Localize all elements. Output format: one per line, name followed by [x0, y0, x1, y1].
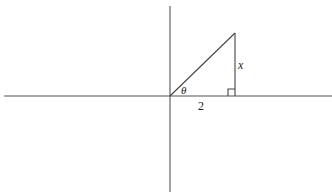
adjacent-label: 2	[198, 99, 204, 113]
hypotenuse	[170, 33, 235, 96]
right-angle-marker	[228, 89, 235, 96]
opposite-label: x	[237, 58, 244, 72]
angle-label: θ	[181, 84, 187, 96]
diagram-canvas: θ 2 x	[0, 0, 332, 196]
